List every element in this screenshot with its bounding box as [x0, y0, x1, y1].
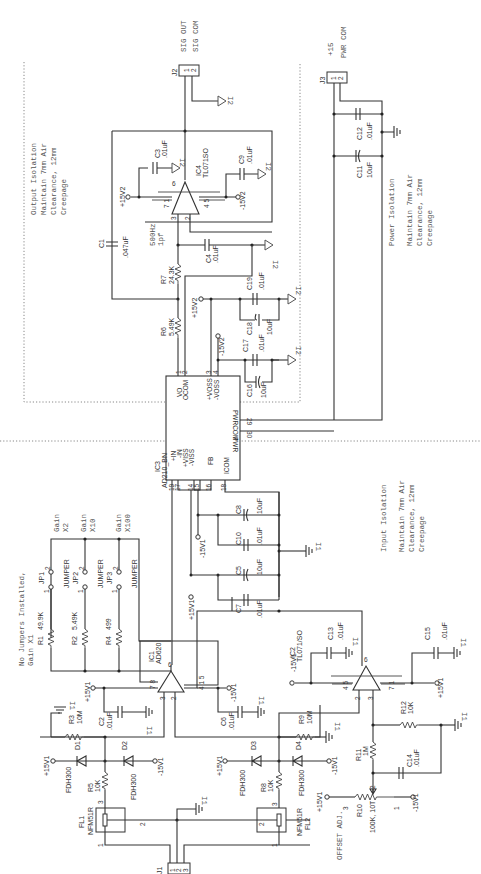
jumper-jp2[interactable]: JP2 JUMPER 2 1	[72, 559, 104, 593]
svg-text:4 5: 4 5	[203, 199, 210, 208]
svg-text:C5: C5	[235, 566, 242, 575]
svg-text:7 1: 7 1	[163, 199, 170, 208]
svg-text:R12: R12	[400, 701, 407, 714]
svg-text:3: 3	[342, 806, 349, 810]
ic3-input-supply: -15V1 +15V1 I1	[188, 490, 322, 620]
svg-text:6: 6	[168, 661, 172, 668]
svg-text:1: 1	[393, 806, 400, 810]
svg-text:R2: R2	[71, 636, 78, 645]
svg-text:1: 1	[77, 589, 84, 593]
svg-text:10uF: 10uF	[266, 319, 273, 335]
svg-text:FL1: FL1	[78, 816, 85, 828]
svg-text:.01uF: .01uF	[337, 622, 344, 640]
svg-text:SIG COM: SIG COM	[192, 20, 200, 52]
svg-text:.01uF: .01uF	[413, 749, 420, 767]
svg-text:3: 3	[205, 370, 212, 374]
svg-text:JP2: JP2	[72, 572, 79, 584]
svg-text:Clearance, 12mm: Clearance, 12mm	[408, 484, 416, 552]
svg-text:2: 2	[112, 566, 119, 570]
svg-text:Gain: Gain	[80, 514, 88, 532]
capacitor-c19: C19 .01uF	[246, 272, 265, 290]
svg-text:Input Isolation: Input Isolation	[380, 484, 388, 552]
svg-text:R3: R3	[68, 715, 75, 724]
input-isolation-note: Input Isolation Maintain 7mm Air Clearan…	[380, 480, 426, 552]
svg-text:-15V1: -15V1	[230, 683, 237, 702]
svg-text:4 5: 4 5	[342, 681, 349, 690]
svg-text:2: 2	[139, 822, 146, 826]
svg-text:Creepage: Creepage	[426, 210, 434, 246]
svg-text:X2: X2	[62, 523, 70, 532]
svg-text:Gain X1: Gain X1	[27, 634, 35, 666]
svg-text:Gain: Gain	[115, 514, 123, 532]
svg-text:I1: I1	[333, 722, 341, 732]
svg-text:2: 2	[337, 76, 344, 80]
svg-text:29: 29	[246, 418, 253, 426]
jumper-jp1[interactable]: JP1 JUMPER 2 1	[38, 559, 70, 593]
svg-text:Output Isolation: Output Isolation	[30, 143, 38, 215]
svg-text:JP1: JP1	[38, 572, 45, 584]
svg-text:IC1: IC1	[148, 651, 155, 662]
svg-text:I2: I2	[226, 96, 234, 105]
svg-text:3: 3	[182, 868, 189, 872]
svg-text:Creepage: Creepage	[418, 516, 426, 552]
capacitor-c17: C17 .01uF	[242, 334, 265, 352]
svg-text:+15: +15	[327, 42, 335, 56]
potentiometer-r10[interactable]: +15V1 -15V1 2 3 1 R10 100K, 10T OFFSET A…	[316, 785, 419, 860]
svg-text:I1: I1	[351, 637, 359, 647]
svg-text:-15V2: -15V2	[239, 191, 246, 210]
capacitor-c11: C11 10uF	[356, 150, 373, 178]
capacitor-c4: I2 C4 .01uF	[176, 239, 279, 269]
svg-text:7 1: 7 1	[388, 681, 395, 690]
svg-text:2: 2	[44, 566, 51, 570]
svg-text:.01uF: .01uF	[256, 600, 263, 618]
ground-i1-input: I1	[175, 796, 310, 863]
svg-text:NFM51R: NFM51R	[87, 807, 94, 835]
svg-text:499: 499	[105, 618, 112, 630]
gain-label-x2: Gain X2	[53, 514, 70, 532]
capacitor-c14: C14 .01uF	[399, 749, 420, 779]
jumper-jp3[interactable]: JP3 JUMPER 2 1	[106, 559, 138, 593]
svg-text:C18: C18	[246, 322, 253, 335]
svg-text:18: 18	[220, 483, 227, 491]
svg-text:I2: I2	[294, 346, 302, 355]
svg-text:R7: R7	[160, 275, 167, 284]
svg-text:C14: C14	[406, 754, 413, 767]
svg-text:No Jumpers Installed,: No Jumpers Installed,	[18, 571, 26, 666]
svg-text:X10: X10	[89, 518, 97, 532]
svg-text:10uF: 10uF	[260, 382, 267, 398]
svg-text:D2: D2	[121, 741, 128, 750]
connector-j1: 1 2 3 J1	[156, 845, 310, 874]
svg-text:SIG OUT: SIG OUT	[180, 20, 188, 52]
svg-text:C4: C4	[205, 254, 212, 263]
capacitor-c15: I1 C15 .01uF	[412, 622, 467, 683]
svg-text:+VOSS: +VOSS	[206, 377, 213, 400]
svg-text:AD210_BN: AD210_BN	[161, 453, 169, 488]
svg-text:Maintain 7mm Air: Maintain 7mm Air	[406, 174, 414, 246]
svg-text:3: 3	[367, 696, 374, 700]
svg-text:D1: D1	[74, 741, 81, 750]
svg-text:TL071/SO: TL071/SO	[296, 630, 303, 662]
svg-text:JUMPER: JUMPER	[131, 559, 138, 588]
svg-text:C15: C15	[424, 627, 431, 640]
svg-text:3: 3	[170, 216, 177, 220]
svg-text:C9: C9	[238, 155, 245, 164]
svg-text:-15V2: -15V2	[218, 337, 225, 356]
svg-text:-15V1: -15V1	[331, 756, 338, 775]
svg-text:J3: J3	[319, 77, 326, 85]
connector-j2: 1 2 J2 SIG OUT SIG COM I2	[171, 20, 234, 131]
resistor-r2: R2 5.49K	[71, 589, 88, 673]
capacitor-c10: C10 .01uF	[235, 527, 263, 545]
svg-text:I1: I1	[314, 542, 322, 552]
capacitor-c8: C8 10uF	[235, 498, 263, 514]
svg-text:10K: 10K	[94, 779, 101, 792]
svg-text:C2: C2	[98, 717, 105, 726]
svg-text:+15V1: +15V1	[437, 677, 444, 698]
svg-text:FDH300: FDH300	[130, 774, 137, 800]
svg-text:NFM51R: NFM51R	[296, 808, 303, 836]
svg-text:IC3: IC3	[154, 461, 161, 472]
svg-text:R1: R1	[37, 636, 44, 645]
svg-text:R5: R5	[87, 783, 94, 792]
svg-text:JUMPER: JUMPER	[97, 559, 104, 588]
svg-text:J1: J1	[156, 867, 163, 874]
svg-text:2: 2	[354, 696, 361, 700]
